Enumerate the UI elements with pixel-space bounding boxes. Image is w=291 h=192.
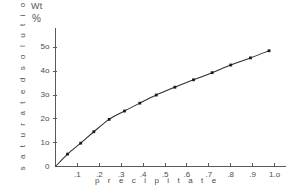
x-tick-label: .7: [200, 170, 218, 179]
data-point: [123, 110, 126, 113]
y-axis-title: s a t u r a t e d s o l u t i o n: [18, 11, 27, 171]
series-line-saturated-solution: [56, 51, 270, 167]
data-point: [268, 49, 271, 52]
unit-label-wt: Wt: [31, 1, 71, 12]
series-markers: [66, 49, 270, 155]
x-tick-label: .1: [68, 170, 86, 179]
y-axis-title-container: s a t u r a t e d s o l u t i o n: [0, 0, 22, 192]
y-tick-label: 3o: [30, 90, 50, 99]
data-point: [79, 142, 82, 145]
unit-label-percent: %: [32, 13, 71, 24]
data-point: [211, 71, 214, 74]
x-tick-label: .4: [134, 170, 152, 179]
y-tick-label: 2o: [30, 114, 50, 123]
x-tick-label: .6: [178, 170, 196, 179]
data-point: [92, 130, 95, 133]
y-tick-label: 0: [30, 162, 50, 171]
y-tick-label: 5o: [30, 42, 50, 51]
axes-group: [56, 28, 286, 167]
data-point: [192, 78, 195, 81]
data-point: [155, 94, 158, 97]
data-point: [229, 64, 232, 67]
x-tick-label: 1.o: [266, 170, 284, 179]
data-point: [249, 56, 252, 59]
y-tick-label: 4o: [30, 66, 50, 75]
chart-figure: Wt % s a t u r a t e d s o l u t i o n p…: [0, 0, 291, 192]
data-point: [173, 86, 176, 89]
x-tick-label: .2: [90, 170, 108, 179]
x-tick-label: .9: [244, 170, 262, 179]
data-point: [108, 118, 111, 121]
x-tick-label: .5: [156, 170, 174, 179]
x-tick-marks: [77, 163, 274, 167]
y-tick-label: 1o: [30, 138, 50, 147]
x-tick-label: .8: [222, 170, 240, 179]
x-tick-label: .3: [112, 170, 130, 179]
data-point: [66, 153, 69, 156]
data-point: [138, 102, 141, 105]
unit-label: Wt %: [31, 1, 71, 24]
